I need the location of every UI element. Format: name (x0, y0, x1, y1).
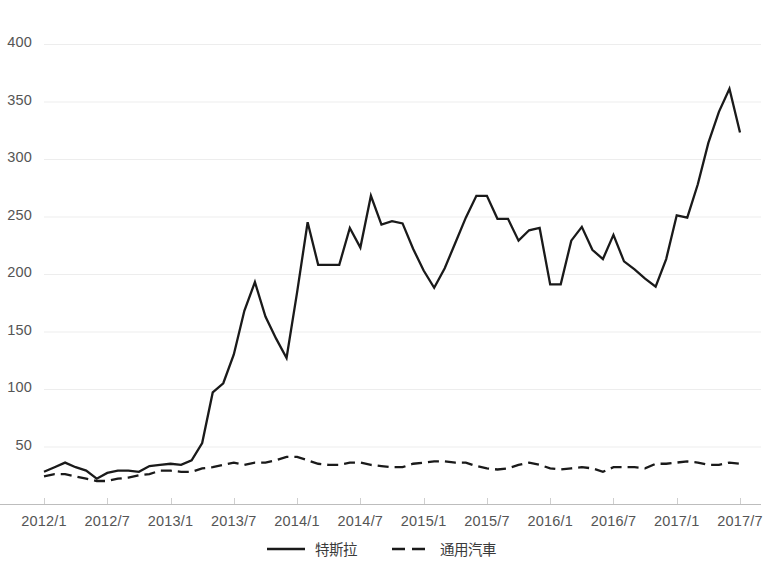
x-axis-ticks (45, 498, 741, 504)
chart-legend: 特斯拉 通用汽車 (0, 538, 761, 559)
y-axis-tick-label: 150 (7, 322, 32, 338)
y-axis-tick-label: 350 (7, 92, 32, 108)
y-axis-tick-label: 300 (7, 149, 32, 165)
y-axis-tick-label: 250 (7, 207, 32, 223)
series-line-general-motors (44, 457, 740, 481)
legend-item-tesla[interactable]: 特斯拉 (266, 538, 357, 559)
y-axis-tick-label: 400 (7, 34, 32, 50)
legend-label-general-motors: 通用汽車 (440, 538, 496, 559)
legend-label-tesla: 特斯拉 (315, 538, 357, 559)
series-line-tesla (44, 89, 740, 479)
x-axis-tick-label: 2017/7 (700, 513, 767, 529)
y-axis-tick-label: 200 (7, 264, 32, 280)
legend-item-general-motors[interactable]: 通用汽車 (391, 538, 496, 559)
legend-line-dashed-icon (391, 544, 431, 554)
y-axis-tick-label: 50 (15, 437, 32, 453)
series-lines (44, 89, 740, 481)
gridlines (44, 45, 761, 448)
legend-line-solid-icon (266, 544, 306, 554)
y-axis-tick-label: 100 (7, 379, 32, 395)
